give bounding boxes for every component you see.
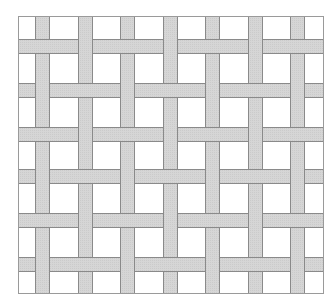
vertical-strip xyxy=(163,16,178,293)
crossing-horizontal-over xyxy=(120,127,135,142)
crossing-horizontal-over xyxy=(163,83,178,98)
crossing-horizontal-over xyxy=(35,39,50,54)
vertical-strip xyxy=(248,16,263,293)
crossing-horizontal-over xyxy=(248,257,263,272)
crossing-horizontal-over xyxy=(290,127,305,142)
crossing-horizontal-over xyxy=(205,127,220,142)
vertical-strip xyxy=(78,16,93,293)
crossing-horizontal-over xyxy=(35,127,50,142)
crossing-horizontal-over xyxy=(205,213,220,228)
vertical-strip xyxy=(120,16,135,293)
crossing-horizontal-over xyxy=(120,213,135,228)
crossing-horizontal-over xyxy=(78,83,93,98)
crossing-horizontal-over xyxy=(78,257,93,272)
vertical-strip xyxy=(35,16,50,293)
crossing-horizontal-over xyxy=(248,83,263,98)
crossing-horizontal-over xyxy=(35,213,50,228)
crossing-horizontal-over xyxy=(120,39,135,54)
crossing-horizontal-over xyxy=(163,169,178,184)
crossing-horizontal-over xyxy=(205,39,220,54)
vertical-strip xyxy=(205,16,220,293)
weave-diagram xyxy=(0,0,330,308)
crossing-horizontal-over xyxy=(163,257,178,272)
crossing-horizontal-over xyxy=(78,169,93,184)
crossing-horizontal-over xyxy=(248,169,263,184)
crossing-horizontal-over xyxy=(290,39,305,54)
crossing-horizontal-over xyxy=(290,213,305,228)
vertical-strip xyxy=(290,16,305,293)
